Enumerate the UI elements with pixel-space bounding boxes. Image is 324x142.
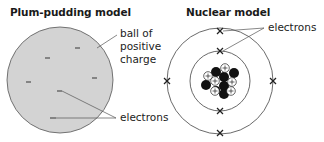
electrons-label-left: electrons: [120, 111, 168, 124]
ball-label-line2: positive: [120, 40, 161, 53]
ball-label: ball of positive charge: [120, 27, 161, 66]
ball-label-line1: ball of: [120, 27, 161, 40]
orbit-electrons: [164, 28, 276, 136]
proton: [211, 87, 220, 96]
ball-label-line3: charge: [120, 53, 161, 66]
inner-orbit: [190, 51, 250, 111]
proton: [227, 87, 236, 96]
orbits: [167, 28, 273, 134]
plum-pudding-ball: [7, 27, 113, 133]
proton: [211, 77, 220, 86]
proton: [228, 78, 237, 87]
nucleus: [201, 64, 239, 99]
neutron: [201, 80, 211, 90]
electrons-label-right: electrons: [268, 21, 316, 34]
neutron: [219, 72, 229, 82]
leader-lines-right: [223, 28, 264, 51]
proton: [221, 64, 230, 73]
electron-x-icon: [217, 28, 223, 34]
neutron: [229, 68, 239, 78]
electron-x-icon: [217, 130, 223, 136]
outer-orbit: [167, 28, 273, 134]
